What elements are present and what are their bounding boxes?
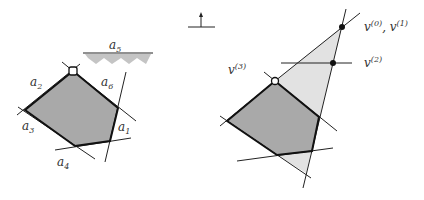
up-arrow-icon <box>188 12 215 27</box>
point-v0 <box>339 24 345 30</box>
a5-hatch-triangles <box>85 54 151 64</box>
diagram-canvas: a2 a6 a5 a3 a1 a4 v(0), <box>0 0 424 200</box>
right-diagram: v(0), v(1) v(2) v(3) <box>188 9 408 188</box>
label-a1: a1 <box>118 120 130 136</box>
label-a3: a3 <box>22 119 34 135</box>
point-v2 <box>330 60 336 66</box>
point-v3-open <box>272 78 279 85</box>
label-v0-v1: v(0), v(1) <box>364 19 408 34</box>
label-a2: a2 <box>30 75 42 91</box>
open-vertex-marker <box>69 67 77 75</box>
label-v2: v(2) <box>364 55 382 70</box>
label-a4: a4 <box>57 155 69 171</box>
left-diagram: a2 a6 a5 a3 a1 a4 <box>17 38 153 171</box>
label-v3: v(3) <box>228 62 246 77</box>
label-a5: a5 <box>109 38 121 54</box>
label-a6: a6 <box>101 75 113 91</box>
